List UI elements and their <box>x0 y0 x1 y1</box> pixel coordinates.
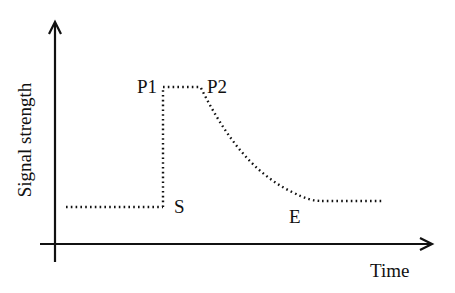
point-label-e: E <box>289 206 301 227</box>
decay-segment <box>201 88 322 201</box>
x-axis <box>40 238 432 250</box>
y-axis-label: Signal strength <box>14 82 35 197</box>
point-label-p1: P1 <box>137 76 157 97</box>
signal-diagram: P1 P2 S E Time Signal strength <box>0 0 455 293</box>
x-axis-label: Time <box>370 260 409 281</box>
signal-curve <box>66 87 384 207</box>
point-label-s: S <box>174 196 185 217</box>
point-label-p2: P2 <box>207 76 227 97</box>
y-axis <box>49 22 61 262</box>
